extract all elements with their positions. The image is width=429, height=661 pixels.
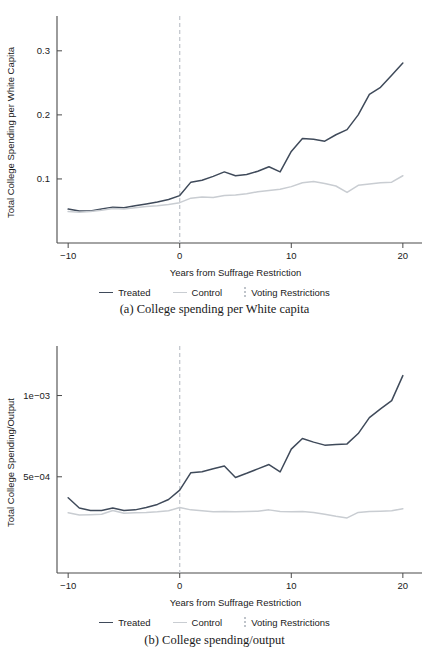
- legend-item-voting-restrictions[interactable]: Voting Restrictions: [244, 287, 330, 298]
- control-line-icon: [173, 292, 187, 293]
- treated-line-icon: [99, 622, 113, 623]
- figure-college-spending: 0.10.20.3−1001020Years from Suffrage Res…: [0, 0, 429, 661]
- plot-area-a: 0.10.20.3−1001020Years from Suffrage Res…: [0, 0, 429, 282]
- y-tick-label: 5e−04: [23, 471, 50, 482]
- legend-b: Treated Control Voting Restrictions: [0, 612, 429, 632]
- legend-label-voting-restrictions: Voting Restrictions: [251, 287, 330, 298]
- legend-item-treated[interactable]: Treated: [99, 617, 150, 628]
- x-tick-label: 20: [398, 580, 409, 591]
- control-line-icon: [173, 622, 187, 623]
- y-axis-title: Total College Spending per White Capita: [5, 46, 16, 218]
- caption-a: (a) College spending per White capita: [0, 302, 429, 317]
- x-tick-label: 20: [398, 250, 409, 261]
- x-axis-title: Years from Suffrage Restriction: [170, 597, 301, 608]
- y-axis-title: Total College Spending/Output: [5, 398, 16, 527]
- legend-label-treated: Treated: [118, 287, 150, 298]
- legend-label-control: Control: [192, 617, 223, 628]
- x-tick-label: 10: [286, 250, 297, 261]
- x-tick-label: 0: [177, 250, 182, 261]
- x-axis-title: Years from Suffrage Restriction: [170, 267, 301, 278]
- plot-area-b: 5e−041e−03−1001020Years from Suffrage Re…: [0, 330, 429, 612]
- chart-a: 0.10.20.3−1001020Years from Suffrage Res…: [0, 0, 429, 282]
- legend-label-control: Control: [192, 287, 223, 298]
- series-line-treated: [68, 376, 403, 511]
- x-tick-label: 10: [286, 580, 297, 591]
- legend-label-treated: Treated: [118, 617, 150, 628]
- y-tick-label: 1e−03: [23, 390, 50, 401]
- y-tick-label: 0.2: [37, 109, 50, 120]
- x-tick-label: −10: [60, 250, 76, 261]
- legend-item-control[interactable]: Control: [173, 617, 223, 628]
- y-tick-label: 0.3: [37, 45, 50, 56]
- legend-label-voting-restrictions: Voting Restrictions: [251, 617, 330, 628]
- x-tick-label: 0: [177, 580, 182, 591]
- panel-a: 0.10.20.3−1001020Years from Suffrage Res…: [0, 0, 429, 330]
- treated-line-icon: [99, 292, 113, 293]
- legend-item-control[interactable]: Control: [173, 287, 223, 298]
- chart-b: 5e−041e−03−1001020Years from Suffrage Re…: [0, 330, 429, 612]
- dashed-vline-icon: [244, 287, 246, 298]
- y-tick-label: 0.1: [37, 173, 50, 184]
- panel-b: 5e−041e−03−1001020Years from Suffrage Re…: [0, 330, 429, 661]
- caption-b: (b) College spending/output: [0, 633, 429, 648]
- x-tick-label: −10: [60, 580, 76, 591]
- legend-item-treated[interactable]: Treated: [99, 287, 150, 298]
- dashed-vline-icon: [244, 617, 246, 628]
- legend-item-voting-restrictions[interactable]: Voting Restrictions: [244, 617, 330, 628]
- legend-a: Treated Control Voting Restrictions: [0, 282, 429, 302]
